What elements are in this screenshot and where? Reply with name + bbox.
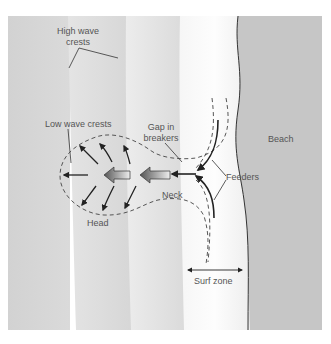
label-high-wave-crests-2: crests xyxy=(66,37,91,47)
rip-current-diagram: High wave crests Low wave crests Gap in … xyxy=(0,0,331,344)
label-high-wave-crests-1: High wave xyxy=(57,26,99,36)
label-beach: Beach xyxy=(268,134,294,144)
label-head: Head xyxy=(87,218,109,228)
label-neck: Neck xyxy=(162,190,183,200)
label-gap-line2: breakers xyxy=(143,133,179,143)
label-gap-line1: Gap in xyxy=(148,122,175,132)
label-surf-zone: Surf zone xyxy=(194,276,233,286)
label-feeders: Feeders xyxy=(226,172,260,182)
label-low-wave-crests: Low wave crests xyxy=(45,119,112,129)
